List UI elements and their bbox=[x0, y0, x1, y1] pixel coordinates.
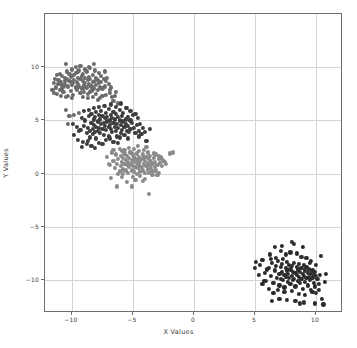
data-point bbox=[298, 301, 302, 305]
y-tick-mark bbox=[41, 173, 44, 174]
data-point bbox=[64, 108, 68, 112]
data-point bbox=[93, 146, 97, 150]
data-point bbox=[304, 256, 308, 260]
data-point bbox=[137, 134, 141, 138]
data-point bbox=[92, 62, 96, 66]
data-point bbox=[103, 69, 107, 73]
data-point bbox=[260, 258, 264, 262]
data-point bbox=[285, 298, 289, 302]
data-point bbox=[76, 137, 80, 141]
data-point bbox=[279, 249, 283, 253]
data-point bbox=[320, 297, 324, 301]
data-point bbox=[297, 292, 301, 296]
data-point bbox=[83, 118, 87, 122]
data-point bbox=[82, 109, 86, 113]
data-point bbox=[86, 139, 90, 143]
data-point bbox=[298, 281, 302, 285]
data-point bbox=[119, 101, 123, 105]
data-point bbox=[121, 111, 125, 115]
y-tick-label: 0 bbox=[35, 169, 39, 176]
data-point bbox=[292, 242, 296, 246]
data-point bbox=[301, 245, 305, 249]
data-point bbox=[294, 251, 298, 255]
data-point bbox=[316, 287, 320, 291]
y-tick-label: 10 bbox=[31, 63, 39, 70]
data-point bbox=[113, 94, 117, 98]
data-point bbox=[130, 120, 134, 124]
data-point bbox=[144, 145, 148, 149]
x-axis-label: X Values bbox=[0, 328, 357, 336]
data-point bbox=[133, 178, 137, 182]
data-point bbox=[86, 96, 90, 100]
data-point bbox=[147, 192, 151, 196]
data-point bbox=[113, 166, 117, 170]
data-point bbox=[265, 267, 269, 271]
data-point bbox=[70, 96, 74, 100]
data-point bbox=[148, 127, 152, 131]
data-point bbox=[138, 174, 142, 178]
data-point bbox=[301, 286, 305, 290]
data-point bbox=[290, 289, 294, 293]
data-point bbox=[321, 302, 325, 306]
plot-area bbox=[44, 13, 342, 312]
x-tick-mark bbox=[254, 312, 255, 315]
data-point bbox=[100, 142, 104, 146]
data-point bbox=[104, 93, 108, 97]
data-point bbox=[115, 184, 119, 188]
data-point bbox=[309, 259, 313, 263]
data-point bbox=[155, 173, 159, 177]
y-tick-mark bbox=[41, 226, 44, 227]
data-point bbox=[299, 255, 303, 259]
data-point bbox=[141, 179, 145, 183]
data-point bbox=[99, 109, 103, 113]
data-point bbox=[61, 90, 65, 94]
data-point bbox=[282, 290, 286, 294]
data-point bbox=[277, 297, 281, 301]
data-point bbox=[266, 286, 270, 290]
y-axis-label: Y Values bbox=[2, 148, 10, 178]
x-tick-mark bbox=[132, 312, 133, 315]
data-point bbox=[59, 94, 63, 98]
data-point bbox=[318, 273, 322, 277]
data-point bbox=[288, 250, 292, 254]
data-point bbox=[260, 282, 264, 286]
data-point bbox=[55, 73, 59, 77]
x-tick-mark bbox=[71, 312, 72, 315]
data-point bbox=[319, 253, 323, 257]
data-point bbox=[293, 299, 297, 303]
data-point bbox=[130, 184, 134, 188]
x-tick-mark bbox=[315, 312, 316, 315]
data-point bbox=[72, 133, 76, 137]
data-point bbox=[258, 263, 262, 267]
data-point bbox=[67, 114, 71, 118]
y-tick-mark bbox=[41, 119, 44, 120]
data-point bbox=[136, 144, 140, 148]
data-point bbox=[91, 95, 95, 99]
data-point bbox=[288, 282, 292, 286]
data-point bbox=[121, 172, 125, 176]
x-tick-mark bbox=[193, 312, 194, 315]
data-point bbox=[274, 264, 278, 268]
data-point bbox=[105, 154, 109, 158]
data-point bbox=[111, 140, 115, 144]
data-point bbox=[88, 90, 92, 94]
x-tick-label: −5 bbox=[127, 316, 136, 323]
data-point bbox=[116, 141, 120, 145]
data-point bbox=[143, 130, 147, 134]
data-point bbox=[257, 273, 261, 277]
data-point bbox=[72, 113, 76, 117]
data-point bbox=[315, 277, 319, 281]
data-point bbox=[273, 245, 277, 249]
data-point bbox=[323, 280, 327, 284]
data-point bbox=[95, 98, 99, 102]
data-point bbox=[284, 252, 288, 256]
data-point bbox=[126, 136, 130, 140]
data-point bbox=[269, 274, 273, 278]
data-point bbox=[77, 129, 81, 133]
y-tick-mark bbox=[41, 279, 44, 280]
y-tick-label: 5 bbox=[35, 116, 39, 123]
data-point bbox=[114, 90, 118, 94]
data-point bbox=[64, 62, 68, 66]
data-point bbox=[66, 122, 70, 126]
x-tick-label: 5 bbox=[252, 316, 256, 323]
